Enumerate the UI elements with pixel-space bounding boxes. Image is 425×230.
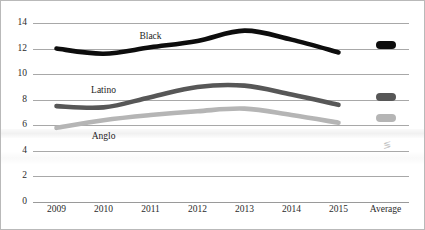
y-axis-tick-label: 12 bbox=[1, 44, 27, 54]
x-axis-tick-label: 2010 bbox=[94, 205, 113, 215]
series-label-anglo: Anglo bbox=[92, 132, 116, 142]
y-axis-tick-label: 10 bbox=[1, 69, 27, 79]
x-axis-tick-label: Average bbox=[370, 205, 401, 215]
x-axis: 2009201020112012201320142015Average bbox=[33, 205, 409, 223]
x-axis-tick-label: 2011 bbox=[141, 205, 160, 215]
y-axis-tick-label: 14 bbox=[1, 18, 27, 28]
x-axis-tick-label: 2014 bbox=[282, 205, 301, 215]
x-axis-tick-label: 2012 bbox=[188, 205, 207, 215]
series-lines bbox=[33, 23, 409, 202]
series-label-black: Black bbox=[139, 32, 161, 42]
x-axis-tick-label: 2009 bbox=[47, 205, 66, 215]
y-axis-tick-label: 6 bbox=[1, 120, 27, 130]
series-label-latino: Latino bbox=[91, 86, 116, 96]
average-marker-anglo bbox=[376, 114, 396, 122]
average-marker-black bbox=[376, 41, 396, 49]
gridline-0 bbox=[33, 202, 409, 203]
y-axis-tick-label: 2 bbox=[1, 171, 27, 181]
series-line-anglo bbox=[57, 109, 339, 128]
y-axis-tick-label: 0 bbox=[1, 197, 27, 207]
average-marker-latino bbox=[376, 93, 396, 101]
x-axis-tick-label: 2015 bbox=[329, 205, 348, 215]
y-axis-tick-label: 4 bbox=[1, 146, 27, 156]
chart-container: 02468101214 BlackLatinoAnglo 20092010201… bbox=[0, 0, 425, 230]
y-axis: 02468101214 bbox=[1, 23, 27, 202]
plot-area: BlackLatinoAnglo bbox=[33, 23, 409, 202]
series-line-black bbox=[57, 31, 339, 54]
y-axis-tick-label: 8 bbox=[1, 95, 27, 105]
x-axis-tick-label: 2013 bbox=[235, 205, 254, 215]
